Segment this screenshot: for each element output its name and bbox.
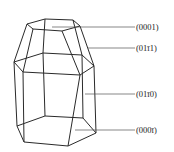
label-basal-top: (0001): [136, 22, 159, 32]
top-hexagon-face: [27, 19, 80, 31]
label-prism: (01ī0): [136, 89, 157, 99]
crystal-diagram: (0001) (01ī1) (01ī0) (000ī): [0, 0, 174, 152]
prism-edges: [14, 53, 96, 146]
bottom-hexagon-face: [17, 116, 96, 146]
label-basal-bottom: (000ī): [136, 125, 157, 135]
label-pyramidal: (01ī1): [136, 43, 157, 53]
